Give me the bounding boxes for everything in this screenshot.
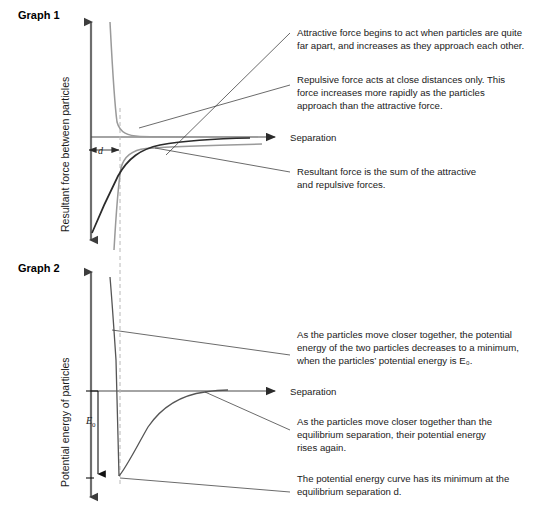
graph2-x-axis-label: Separation (290, 386, 336, 397)
graph2-repulsive-branch (110, 277, 119, 476)
graph1-annotation-resultant: Resultant force is the sum of the attrac… (297, 166, 476, 190)
graph2-anno-closer-line3: rises again. (297, 442, 346, 453)
graph1-anno-resultant-line2: and repulsive forces. (297, 179, 386, 190)
graph1-x-axis-label: Separation (290, 132, 336, 143)
graph1-y-axis-label: Resultant force between particles (59, 77, 71, 232)
graph1-attractive-curve (114, 144, 262, 250)
graph2-annotation-closer: As the particles move closer together th… (297, 416, 492, 453)
graph2-anno-closer-line2: equilibrium separation, their potential … (297, 429, 486, 440)
graph1-anno-repulsive-line1: Repulsive force acts at close distances … (297, 74, 505, 85)
graph2-panel: Graph 2 Potential energy of particles Se… (18, 256, 519, 497)
graph1-panel: Graph 1 Resultant force between particle… (18, 9, 524, 252)
graph2-anno-equilibrium-line2: equilibrium separation d. (297, 486, 402, 497)
graph2-title: Graph 2 (18, 262, 60, 274)
graph1-anno-attractive-line2: far apart, and increases as they approac… (297, 40, 524, 51)
graph1-anno-attractive-line1: Attractive force begins to act when part… (297, 27, 522, 38)
graph2-anno-equilibrium-line1: The potential energy curve has its minim… (297, 473, 509, 484)
figure-canvas: Graph 1 Resultant force between particle… (0, 0, 539, 513)
physics-figure: Graph 1 Resultant force between particle… (0, 0, 539, 513)
graph1-annotation-attractive: Attractive force begins to act when part… (297, 27, 524, 51)
graph1-leader-resultant (155, 148, 290, 172)
graph1-leader-repulsive (139, 85, 290, 128)
graph2-leader-closer (205, 392, 290, 430)
graph1-anno-resultant-line1: Resultant force is the sum of the attrac… (297, 166, 476, 177)
graph2-annotation-minimum: As the particles move closer together, t… (296, 329, 519, 366)
graph1-annotation-repulsive: Repulsive force acts at close distances … (297, 74, 505, 111)
graph1-anno-repulsive-line2: force increases more rapidly as the part… (297, 87, 485, 98)
graph2-potential-curve (119, 390, 228, 476)
graph1-title: Graph 1 (18, 9, 60, 21)
graph2-annotation-equilibrium: The potential energy curve has its minim… (297, 473, 509, 497)
graph2-anno-minimum-line1: As the particles move closer together, t… (297, 329, 512, 340)
graph1-anno-repulsive-line3: approach than the attractive force. (297, 100, 443, 111)
graph2-anno-minimum-line2: energy of the two particles decreases to… (297, 342, 519, 353)
graph2-leader-minimum (112, 330, 290, 355)
graph2-anno-closer-line1: As the particles move closer together th… (297, 416, 492, 427)
graph2-anno-minimum-line3: when the particles’ potential energy is … (296, 355, 472, 366)
graph1-repulsive-curve (110, 22, 258, 137)
graph1-d-label: d (98, 145, 104, 156)
graph2-leader-equilibrium (120, 478, 290, 492)
graph2-y-axis-label: Potential energy of particles (59, 357, 71, 487)
